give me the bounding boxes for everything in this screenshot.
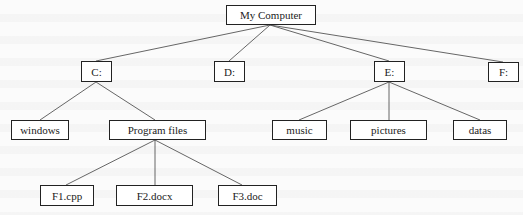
edge-e-datas — [389, 82, 480, 120]
edge-c-windows — [40, 82, 96, 120]
tree-edges — [0, 0, 523, 215]
edge-programfiles-f1 — [66, 140, 155, 185]
node-drive-e: E: — [374, 61, 405, 82]
edge-root-e — [270, 25, 389, 61]
node-music: music — [272, 120, 327, 140]
node-f3-doc: F3.doc — [218, 185, 277, 206]
node-drive-d: D: — [214, 61, 245, 82]
edge-e-music — [299, 82, 389, 120]
edge-root-f — [270, 25, 503, 62]
edge-programfiles-f3 — [155, 140, 242, 185]
edge-c-programfiles — [96, 82, 155, 120]
edge-root-d — [229, 25, 270, 61]
directory-tree-diagram: My Computer C: D: E: F: windows Program … — [0, 0, 523, 215]
node-program-files: Program files — [109, 120, 206, 140]
node-drive-c: C: — [81, 61, 112, 82]
node-f1-cpp: F1.cpp — [40, 185, 94, 206]
node-f2-docx: F2.docx — [116, 185, 193, 206]
node-datas: datas — [453, 120, 507, 140]
node-pictures: pictures — [350, 120, 427, 140]
node-drive-f: F: — [488, 62, 519, 82]
node-my-computer: My Computer — [226, 5, 316, 25]
node-windows: windows — [11, 120, 69, 140]
edge-root-c — [96, 25, 270, 61]
